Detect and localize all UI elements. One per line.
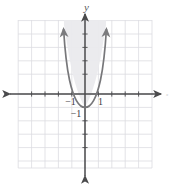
x-tick-label-positive-one: 1 — [98, 96, 103, 107]
y-axis-label: y — [83, 1, 89, 13]
graph-figure: −1 1 −1 y x — [0, 0, 171, 185]
coordinate-plane-plot: −1 1 −1 y x — [0, 0, 171, 185]
x-tick-label-negative-one: −1 — [65, 96, 76, 107]
y-tick-label-negative-one: −1 — [71, 108, 82, 119]
